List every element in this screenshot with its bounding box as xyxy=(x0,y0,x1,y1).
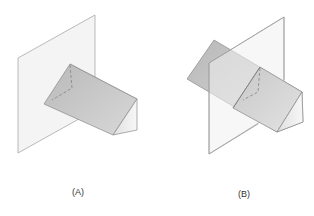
panel-a xyxy=(18,15,137,153)
panel-b xyxy=(187,17,303,154)
diagram-canvas xyxy=(0,0,314,216)
panel-a-label: (A) xyxy=(72,187,84,197)
panel-b-label: (B) xyxy=(238,189,250,199)
